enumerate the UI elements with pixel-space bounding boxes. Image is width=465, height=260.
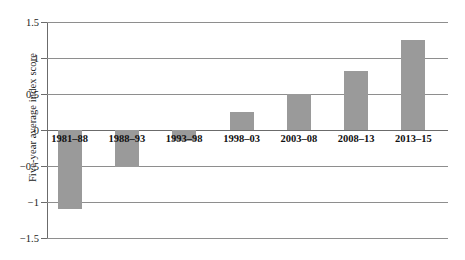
gridline--1: [47, 202, 448, 203]
bar: [344, 71, 368, 130]
tick-mark: [41, 94, 47, 95]
y-axis-tick-label: −1.5: [20, 233, 39, 244]
y-axis-tick-label: 0.5: [26, 89, 39, 100]
gridline-1-5: [47, 22, 448, 23]
x-axis-label: 1981–88: [51, 133, 88, 144]
x-axis-label: 2013–15: [395, 133, 432, 144]
gridline--0-5: [47, 166, 448, 167]
tick-mark: [41, 202, 47, 203]
y-axis-tick-label: −0.5: [20, 161, 39, 172]
plot-area: 1.510.50−0.5−1−1.5 1981–881988–931993–98…: [47, 22, 448, 238]
tick-mark: [41, 58, 47, 59]
tick-mark: [41, 166, 47, 167]
bar: [230, 112, 254, 130]
tick-mark: [41, 130, 47, 131]
x-axis-label: 1993–98: [166, 133, 203, 144]
gridline-0-5: [47, 94, 448, 95]
x-axis-label: 1988–93: [109, 133, 146, 144]
gridline-1: [47, 58, 448, 59]
gridline-0: [47, 130, 448, 131]
y-axis-title: Five-year average index score: [27, 23, 38, 213]
x-axis-label: 2003–08: [280, 133, 317, 144]
tick-mark: [41, 238, 47, 239]
x-axis-label: 1998–03: [223, 133, 260, 144]
y-axis-tick-label: 0: [34, 125, 39, 136]
y-axis-tick-label: 1: [34, 53, 39, 64]
bar: [287, 94, 311, 130]
y-axis-tick-label: 1.5: [26, 17, 39, 28]
gridline--1-5: [47, 238, 448, 239]
tick-mark: [41, 22, 47, 23]
bar-chart: Five-year average index score 1.510.50−0…: [0, 0, 465, 260]
bar: [401, 40, 425, 130]
y-axis-tick-label: −1: [28, 197, 39, 208]
x-axis-label: 2008–13: [338, 133, 375, 144]
